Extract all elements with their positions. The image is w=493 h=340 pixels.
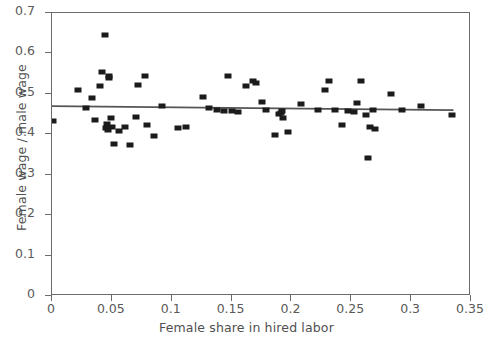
- data-point: [417, 103, 424, 108]
- x-tick-label-0.2: 0.2: [280, 303, 300, 316]
- data-point: [387, 92, 394, 97]
- scatter-plot-figure: 00.10.20.30.40.50.60.7 00.050.10.150.20.…: [0, 0, 493, 340]
- plot-frame: [51, 12, 470, 295]
- x-tick-label-0.3: 0.3: [400, 303, 420, 316]
- data-point: [106, 76, 113, 81]
- data-point: [350, 109, 357, 114]
- data-point: [199, 95, 206, 100]
- data-point: [258, 99, 265, 104]
- data-point: [448, 112, 455, 117]
- data-point: [338, 122, 345, 127]
- data-point: [369, 108, 376, 113]
- x-tick-label-0.25: 0.25: [336, 303, 364, 316]
- y-tick-label-0: 0: [27, 288, 35, 301]
- trend-line: [52, 13, 469, 294]
- y-axis-title: Female wage / male wage: [14, 33, 29, 263]
- data-point: [183, 125, 190, 130]
- data-point: [92, 117, 99, 122]
- plot-area: [52, 13, 469, 294]
- x-tick-label-0.15: 0.15: [217, 303, 245, 316]
- data-point: [126, 143, 133, 148]
- data-point: [214, 108, 221, 113]
- data-point: [357, 78, 364, 83]
- x-axis-title: Female share in hired labor: [0, 320, 493, 335]
- data-point: [52, 118, 57, 123]
- data-point: [135, 83, 142, 88]
- data-point: [75, 88, 82, 93]
- data-point: [372, 127, 379, 132]
- data-point: [143, 123, 150, 128]
- x-tick-label-0.35: 0.35: [456, 303, 484, 316]
- data-point: [111, 141, 118, 146]
- data-point: [314, 108, 321, 113]
- data-point: [331, 108, 338, 113]
- data-point: [280, 115, 287, 120]
- data-point: [234, 110, 241, 115]
- data-point: [325, 78, 332, 83]
- data-point: [271, 132, 278, 137]
- data-point: [321, 88, 328, 93]
- data-point: [101, 33, 108, 38]
- data-point: [354, 100, 361, 105]
- data-point: [99, 69, 106, 74]
- data-point: [159, 103, 166, 108]
- data-point: [298, 102, 305, 107]
- data-point: [205, 105, 212, 110]
- data-point: [108, 124, 115, 129]
- data-point: [88, 95, 95, 100]
- x-tick-label-0.05: 0.05: [97, 303, 125, 316]
- data-point: [284, 129, 291, 134]
- data-point: [252, 80, 259, 85]
- data-point: [398, 108, 405, 113]
- x-tick-label-0.1: 0.1: [161, 303, 181, 316]
- data-point: [132, 114, 139, 119]
- data-point: [142, 73, 149, 78]
- data-point: [362, 112, 369, 117]
- data-point: [224, 73, 231, 78]
- data-point: [150, 133, 157, 138]
- data-point: [365, 156, 372, 161]
- data-point: [242, 84, 249, 89]
- x-tick-label-0: 0: [47, 303, 55, 316]
- data-point: [82, 105, 89, 110]
- data-point: [278, 108, 285, 113]
- y-tick-label-0.7: 0.7: [15, 5, 35, 18]
- data-point: [122, 125, 129, 130]
- data-point: [263, 108, 270, 113]
- data-point: [221, 108, 228, 113]
- data-point: [107, 116, 114, 121]
- data-point: [174, 125, 181, 130]
- data-point: [96, 84, 103, 89]
